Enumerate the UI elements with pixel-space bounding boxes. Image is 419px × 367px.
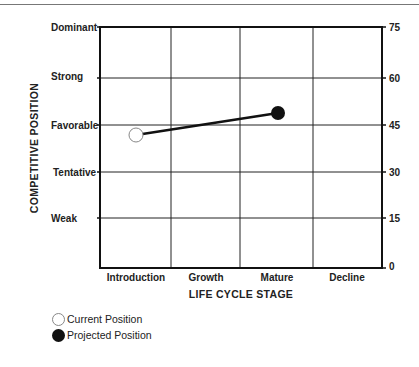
open-circle-icon [52, 313, 65, 326]
filled-circle-icon [52, 329, 65, 342]
x-label-decline: Decline [329, 272, 365, 283]
y-tick-0: 0 [389, 261, 395, 272]
legend-item-projected: Projected Position [52, 327, 152, 343]
projected-position-marker [271, 106, 285, 120]
legend-label: Projected Position [67, 329, 152, 341]
y-label-tentative: Tentative [53, 167, 97, 178]
legend-item-current: Current Position [52, 311, 152, 327]
y-label-weak: Weak [51, 213, 77, 224]
x-label-introduction: Introduction [107, 272, 165, 283]
y-tick-60: 60 [389, 73, 401, 84]
y-tick-15: 15 [389, 213, 401, 224]
legend-label: Current Position [67, 313, 142, 325]
y-tick-45: 45 [389, 120, 401, 131]
plot-frame [100, 27, 382, 268]
x-label-growth: Growth [189, 272, 224, 283]
current-position-marker [129, 128, 143, 142]
x-label-mature: Mature [261, 272, 294, 283]
x-axis-title: LIFE CYCLE STAGE [189, 288, 293, 300]
y-axis-title: COMPETITIVE POSITION [28, 83, 40, 213]
y-label-dominant: Dominant [51, 22, 98, 33]
grid [100, 27, 382, 268]
y-tick-75: 75 [389, 22, 401, 33]
trajectory-line [136, 113, 278, 135]
legend: Current Position Projected Position [52, 311, 152, 343]
y-label-strong: Strong [51, 71, 83, 82]
y-label-favorable: Favorable [51, 120, 99, 131]
y-tick-30: 30 [389, 167, 401, 178]
